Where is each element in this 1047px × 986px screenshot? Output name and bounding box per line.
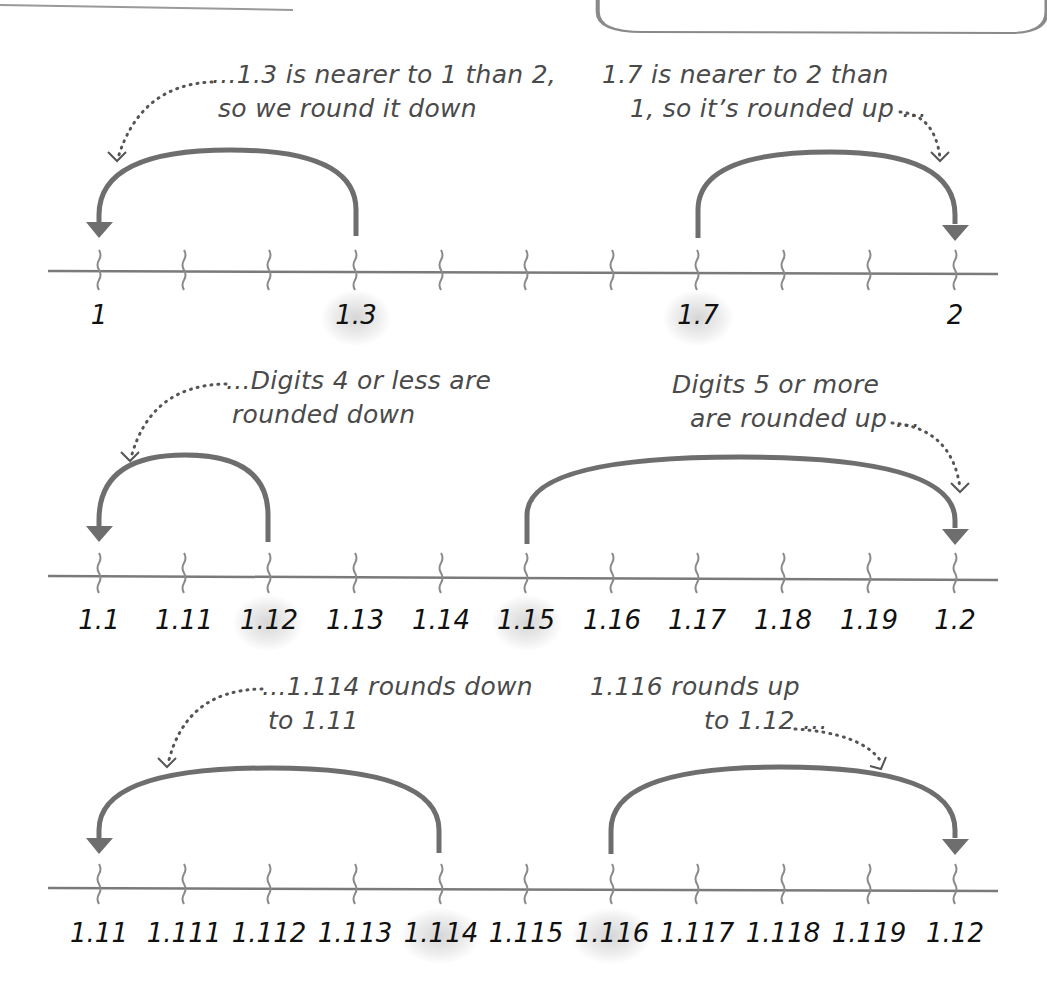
chevron-down-icon xyxy=(158,758,176,767)
tick-label: 1.118 xyxy=(746,918,820,948)
round-down-arc xyxy=(99,150,356,236)
note-line: to 1.12 ... xyxy=(590,704,828,738)
note-thousandths-right: 1.116 rounds up to 1.12 ... xyxy=(590,670,828,738)
tick-label: 1.3 xyxy=(335,300,376,330)
tick-label: 1.15 xyxy=(497,605,555,635)
note-line: ...1.3 is nearer to 1 than 2, xyxy=(212,58,556,92)
arrowhead-down-icon xyxy=(942,529,969,545)
tick-label: 1.11 xyxy=(70,918,128,948)
chevron-down-icon xyxy=(108,152,126,161)
tick-label: 1.7 xyxy=(677,300,718,330)
diagram-canvas xyxy=(0,0,1047,986)
arrowhead-down-icon xyxy=(942,225,969,241)
tick-label: 1.1 xyxy=(78,605,119,635)
round-down-arc xyxy=(99,455,268,542)
dotted-leader-left xyxy=(131,384,226,458)
ticks xyxy=(98,864,957,904)
header-box xyxy=(598,0,1047,33)
ticks xyxy=(98,553,957,593)
dotted-leader-left xyxy=(118,82,212,158)
tick-label: 2 xyxy=(947,300,964,330)
note-tenths-right: 1.7 is nearer to 2 than 1, so it’s round… xyxy=(602,58,927,126)
tick-label: 1.116 xyxy=(575,918,649,948)
tick-label: 1.114 xyxy=(404,918,478,948)
note-line: 1.116 rounds up xyxy=(590,670,828,704)
tick-label: 1.13 xyxy=(326,605,384,635)
tick-label: 1 xyxy=(91,300,108,330)
tick-label: 1.119 xyxy=(832,918,906,948)
note-hundredths-left: ...Digits 4 or less are rounded down xyxy=(226,364,491,432)
header-rule xyxy=(0,5,293,10)
note-line: rounded down xyxy=(226,398,491,432)
tick-label: 1.11 xyxy=(155,605,213,635)
tick-label: 1.113 xyxy=(318,918,392,948)
tick-label: 1.18 xyxy=(754,605,812,635)
chevron-down-icon xyxy=(121,452,139,461)
note-line: ...1.114 rounds down xyxy=(262,670,533,704)
tick-label: 1.115 xyxy=(489,918,563,948)
tick-label: 1.17 xyxy=(668,605,726,635)
tick-label: 1.2 xyxy=(934,605,975,635)
round-up-arc xyxy=(698,152,955,238)
tick-label: 1.111 xyxy=(147,918,221,948)
tick-label: 1.12 xyxy=(926,918,984,948)
round-up-arc xyxy=(527,457,955,544)
arrowhead-down-icon xyxy=(942,839,969,855)
note-line: 1.7 is nearer to 2 than xyxy=(602,58,927,92)
tick-label: 1.117 xyxy=(660,918,734,948)
dotted-leader-left xyxy=(168,689,262,764)
note-line: to 1.11 xyxy=(262,704,533,738)
note-line: Digits 5 or more xyxy=(672,368,920,402)
note-line: are rounded up ... xyxy=(672,402,920,436)
note-line: 1, so it’s rounded up ... xyxy=(602,92,927,126)
note-thousandths-left: ...1.114 rounds down to 1.11 xyxy=(262,670,533,738)
note-hundredths-right: Digits 5 or more are rounded up ... xyxy=(672,368,920,436)
tick-label: 1.112 xyxy=(232,918,306,948)
tick-label: 1.14 xyxy=(412,605,470,635)
arrowhead-down-icon xyxy=(86,526,113,542)
note-tenths-left: ...1.3 is nearer to 1 than 2, so we roun… xyxy=(212,58,556,126)
round-up-arc xyxy=(611,767,955,854)
ticks xyxy=(98,250,957,290)
arrowhead-down-icon xyxy=(86,838,113,854)
tick-label: 1.19 xyxy=(840,605,898,635)
arrowhead-down-icon xyxy=(86,222,113,238)
tick-label: 1.16 xyxy=(583,605,641,635)
tick-label: 1.12 xyxy=(240,605,298,635)
round-down-arc xyxy=(99,768,439,853)
note-line: ...Digits 4 or less are xyxy=(226,364,491,398)
note-line: so we round it down xyxy=(212,92,556,126)
